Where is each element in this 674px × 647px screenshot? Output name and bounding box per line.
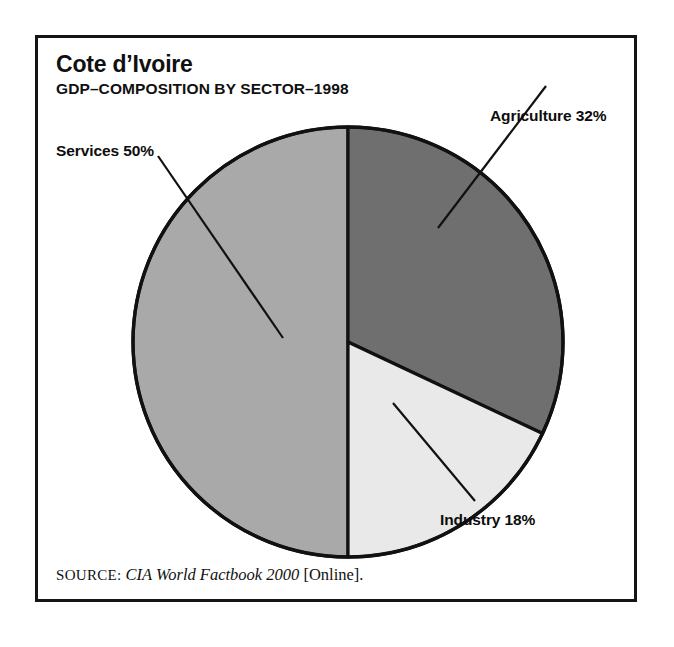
source-note: SOURCE: CIA World Factbook 2000 [Online]… bbox=[56, 565, 363, 585]
source-work-title: CIA World Factbook 2000 bbox=[126, 565, 300, 584]
source-suffix: [Online]. bbox=[303, 565, 363, 584]
pie-label-agriculture: Agriculture 32% bbox=[490, 107, 607, 125]
source-label: SOURCE: bbox=[56, 567, 121, 583]
figure-frame: Cote d’Ivoire GDP–COMPOSITION BY SECTOR–… bbox=[35, 35, 637, 602]
pie-label-services: Services 50% bbox=[56, 142, 154, 160]
pie-slice-services bbox=[133, 127, 348, 557]
pie-label-industry: Industry 18% bbox=[440, 511, 535, 529]
